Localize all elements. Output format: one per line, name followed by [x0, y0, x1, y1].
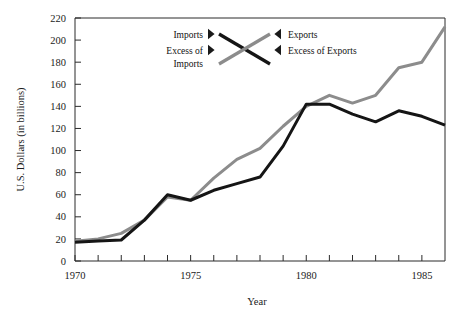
y-axis-tick-label: 0	[61, 256, 66, 267]
x-axis-tick-label: 1975	[180, 270, 201, 281]
legend-pointer-imports-icon	[208, 29, 215, 39]
y-axis-tick-label: 200	[50, 35, 66, 46]
y-axis-tick-label: 160	[50, 79, 66, 90]
y-axis-tick-label: 80	[56, 167, 67, 178]
legend-pointer-excess-exports-icon	[274, 45, 281, 55]
y-axis-tick-label: 100	[50, 145, 66, 156]
legend-pointer-exports-icon	[274, 29, 281, 39]
x-axis-tick-label: 1970	[65, 270, 86, 281]
x-axis-tick-label: 1980	[296, 270, 317, 281]
plot-frame	[75, 18, 445, 261]
y-axis-tick-label: 140	[50, 101, 66, 112]
legend-label-excess-imports-line2: Imports	[173, 59, 203, 69]
legend-pointer-excess-imports-icon	[208, 45, 215, 55]
line-chart: 0204060801001201401601802002201970197519…	[0, 0, 464, 316]
legend-label-imports: Imports	[173, 30, 203, 40]
legend-label-excess-exports: Excess of Exports	[288, 46, 357, 56]
y-axis-tick-label: 220	[50, 13, 66, 24]
chart-container: 0204060801001201401601802002201970197519…	[0, 0, 464, 316]
y-axis-tick-label: 180	[50, 57, 66, 68]
x-axis-tick-label: 1985	[411, 270, 432, 281]
y-axis-tick-label: 60	[56, 189, 67, 200]
series-line-exports	[75, 104, 445, 242]
y-axis-tick-label: 40	[56, 211, 67, 222]
y-axis-tick-label: 120	[50, 123, 66, 134]
y-axis-title: U.S. Dollars (in billions)	[15, 87, 27, 192]
x-axis-title: Year	[247, 296, 267, 307]
legend-label-excess-imports-line1: Excess of	[166, 46, 204, 56]
legend-label-exports: Exports	[288, 30, 318, 40]
y-axis-tick-label: 20	[56, 234, 67, 245]
